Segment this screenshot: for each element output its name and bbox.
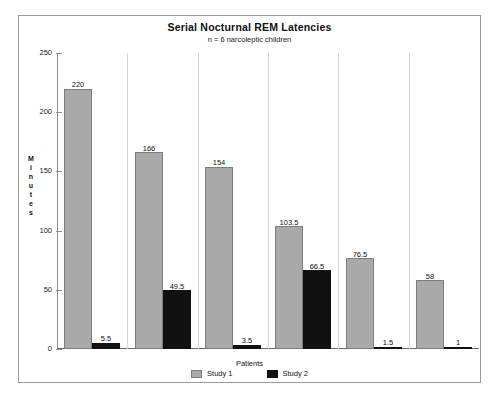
- bar-value-label: 166: [143, 145, 156, 153]
- bar-value-label: 66.5: [310, 263, 325, 271]
- bar-value-label: 154: [213, 159, 226, 167]
- chart-legend: Study 1 Study 2: [19, 370, 480, 378]
- bar-study-2-patient-3: 3.5: [233, 345, 261, 349]
- y-axis-title-letter: t: [25, 190, 37, 199]
- y-axis-tick-label: 0: [25, 345, 52, 353]
- bar-value-label: 58: [426, 273, 434, 281]
- chart-title: Serial Nocturnal REM Latencies: [19, 21, 480, 33]
- plot-area: 050100150200250 2205.516649.51543.5103.5…: [57, 53, 479, 349]
- group-separator: [127, 53, 128, 349]
- y-axis-tick: [56, 231, 62, 232]
- legend-label-study-2: Study 2: [283, 370, 308, 378]
- bar-value-label: 220: [72, 81, 85, 89]
- y-axis-line: [57, 53, 58, 349]
- legend-item-study-1: Study 1: [191, 370, 232, 378]
- y-axis-tick-label: 150: [25, 167, 52, 175]
- bar-study-1-patient-1: 220: [64, 89, 92, 349]
- bar-study-2-patient-4: 66.5: [303, 270, 331, 349]
- y-axis-tick: [56, 112, 62, 113]
- group-separator: [268, 53, 269, 349]
- legend-swatch-study-1-icon: [191, 370, 202, 378]
- group-separator: [338, 53, 339, 349]
- group-separator: [198, 53, 199, 349]
- y-axis-tick: [56, 290, 62, 291]
- bar-value-label: 3.5: [242, 337, 252, 345]
- legend-item-study-2: Study 2: [267, 370, 308, 378]
- x-axis-title: Patients: [19, 359, 480, 368]
- bar-study-1-patient-2: 166: [135, 152, 163, 349]
- bar-value-label: 76.5: [353, 251, 368, 259]
- y-axis-title-letter: s: [25, 208, 37, 217]
- chart-frame: Serial Nocturnal REM Latencies n = 6 nar…: [18, 15, 481, 383]
- chart-subtitle: n = 6 narcoleptic children: [19, 35, 480, 44]
- bar-study-2-patient-6: 1: [444, 347, 472, 350]
- bar-value-label: 1: [456, 339, 460, 347]
- y-axis-tick: [56, 349, 62, 350]
- bar-study-2-patient-2: 49.5: [163, 290, 191, 349]
- y-axis-tick: [56, 171, 62, 172]
- bar-value-label: 5.5: [101, 335, 111, 343]
- legend-swatch-study-2-icon: [267, 370, 278, 378]
- y-axis-tick-label: 250: [25, 49, 52, 57]
- y-axis-title-letter: u: [25, 181, 37, 190]
- bar-study-2-patient-1: 5.5: [92, 343, 120, 350]
- bar-value-label: 103.5: [280, 219, 299, 227]
- y-axis-tick-label: 200: [25, 108, 52, 116]
- y-axis-title-letter: e: [25, 199, 37, 208]
- bar-study-1-patient-6: 58: [416, 280, 444, 349]
- y-axis-title-letter: M: [25, 154, 37, 163]
- bar-value-label: 49.5: [170, 283, 185, 291]
- legend-label-study-1: Study 1: [207, 370, 232, 378]
- y-axis-tick-label: 50: [25, 286, 52, 294]
- y-axis-title: Minutes: [25, 154, 37, 217]
- y-axis-tick-label: 100: [25, 227, 52, 235]
- bar-study-1-patient-3: 154: [205, 167, 233, 349]
- bar-value-label: 1.5: [383, 339, 393, 347]
- bar-study-1-patient-4: 103.5: [275, 226, 303, 349]
- group-separator: [409, 53, 410, 349]
- bar-study-1-patient-5: 76.5: [346, 258, 374, 349]
- bar-study-2-patient-5: 1.5: [374, 347, 402, 350]
- y-axis-tick: [56, 53, 62, 54]
